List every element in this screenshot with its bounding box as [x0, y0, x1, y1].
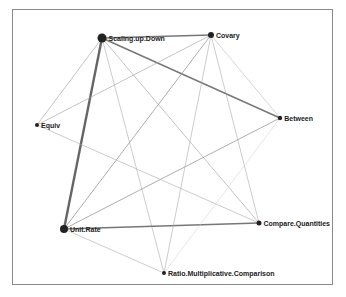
node-dot	[35, 123, 39, 127]
node-label: Compare.Quantities	[264, 220, 331, 228]
node-label: Between	[284, 115, 313, 122]
edge-scaling-between	[102, 38, 280, 118]
node-dot	[257, 221, 262, 226]
node-scaling[interactable]: Scaling.up.Down	[98, 34, 165, 43]
node-covary[interactable]: Covary	[208, 32, 240, 40]
edge-scaling-unitrate	[64, 38, 102, 229]
node-dot	[98, 34, 107, 43]
node-unitrate[interactable]: Unit.Rate	[60, 225, 101, 233]
node-dot	[162, 271, 166, 275]
node-dot	[208, 32, 214, 38]
node-label: Scaling.up.Down	[109, 35, 165, 43]
edge-unitrate-covary	[64, 35, 211, 229]
node-label: Ratio.Multiplicative.Comparison	[168, 270, 275, 278]
edges-layer	[37, 35, 280, 273]
node-dot	[60, 225, 68, 233]
edge-unitrate-ratio	[64, 229, 164, 273]
node-label: Covary	[216, 32, 240, 40]
node-label: Equiv	[41, 122, 60, 130]
edge-equiv-compare	[37, 125, 259, 223]
edge-covary-ratio	[164, 35, 211, 273]
node-between[interactable]: Between	[278, 115, 313, 122]
node-ratio[interactable]: Ratio.Multiplicative.Comparison	[162, 270, 275, 278]
network-graph: Scaling.up.DownCovaryEquivBetweenUnit.Ra…	[0, 0, 346, 297]
node-compare[interactable]: Compare.Quantities	[257, 220, 331, 228]
edge-unitrate-between	[64, 118, 280, 229]
node-label: Unit.Rate	[70, 226, 101, 233]
edge-between-ratio	[164, 118, 280, 273]
edge-scaling-ratio	[102, 38, 164, 273]
node-dot	[278, 116, 282, 120]
